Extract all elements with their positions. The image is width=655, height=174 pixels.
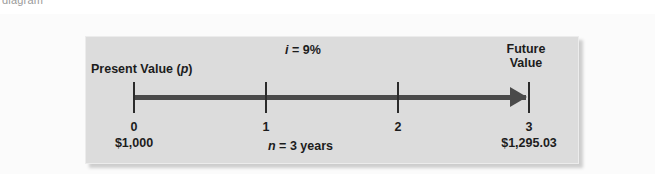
timeline-value-group-2: 2 <box>358 119 438 135</box>
timeline-value-group-1: 1 <box>226 119 306 135</box>
interest-rate-equation: = 9% <box>288 43 320 57</box>
timeline-amount-0: $1,000 <box>94 135 174 151</box>
periods-label: n = 3 years <box>268 139 333 153</box>
timeline-tick-0 <box>133 82 135 113</box>
timeline-tick-2 <box>397 82 399 113</box>
present-value-label: Present Value (p) <box>91 62 192 76</box>
timeline-period-2: 2 <box>358 119 438 135</box>
future-value-label: Future Value <box>491 42 561 71</box>
caption-fragment: diagram <box>2 0 43 6</box>
timeline-period-3: 3 <box>486 119 572 135</box>
timeline-period-1: 1 <box>226 119 306 135</box>
timeline-axis-line <box>134 95 526 100</box>
timeline-value-group-3: 3 $1,295.03 <box>486 119 572 152</box>
present-value-label-suffix: ) <box>188 62 192 76</box>
time-value-diagram-panel: Present Value (p) i = 9% Future Value 0 … <box>85 36 579 164</box>
timeline-arrow-icon <box>510 87 527 107</box>
timeline-period-0: 0 <box>94 119 174 135</box>
interest-rate-label: i = 9% <box>285 43 321 57</box>
timeline-tick-3 <box>528 82 530 113</box>
periods-equation: = 3 years <box>276 139 333 153</box>
page-sheet: Present Value (p) i = 9% Future Value 0 … <box>0 14 655 174</box>
periods-symbol: n <box>268 139 276 153</box>
timeline-value-group-0: 0 $1,000 <box>94 119 174 152</box>
timeline-tick-1 <box>265 82 267 113</box>
timeline-amount-3: $1,295.03 <box>486 135 572 151</box>
present-value-label-prefix: Present Value ( <box>91 62 181 76</box>
